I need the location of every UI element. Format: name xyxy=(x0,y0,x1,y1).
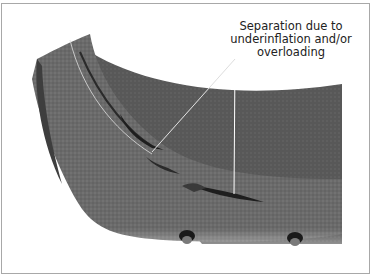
callout-line-3: overloading xyxy=(216,46,366,59)
figure-frame: Separation due to underinflation and/or … xyxy=(1,3,370,274)
callout-label: Separation due to underinflation and/or … xyxy=(216,20,366,59)
